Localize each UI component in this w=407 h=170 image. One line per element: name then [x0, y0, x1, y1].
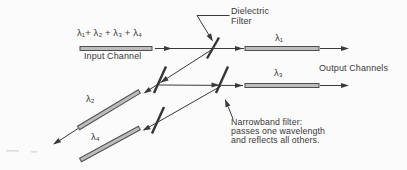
l1-fiber-bar [245, 47, 319, 51]
l4-fiber-bar [80, 126, 141, 161]
input-wavelengths-label: λ₁+ λ₂ + λ₃ + λ₄ [77, 28, 142, 38]
l1-exit-arrowhead [341, 46, 349, 51]
l4-entry-arrowhead [143, 125, 151, 131]
filter-tick-4 [152, 107, 164, 134]
dielectric-pointer-arrowhead [207, 33, 213, 41]
lambda1-label: λ₁ [275, 33, 283, 43]
l2-exit-arrowhead [53, 138, 61, 145]
narrowband-pointer-arrowhead [225, 99, 230, 107]
scan-artifact [31, 151, 37, 153]
input-channel-label: Input Channel [84, 51, 141, 61]
l3-exit-arrowhead [341, 83, 349, 88]
l1-entry-arrowhead [235, 46, 243, 51]
output-channels-label: Output Channels [319, 63, 388, 73]
diagram-canvas [0, 0, 407, 170]
input-arrowhead [164, 46, 172, 51]
input-fiber-bar [80, 47, 152, 51]
filter2-to-l3-beam [159, 85, 243, 86]
dielectric-label-pointer-line [197, 16, 230, 36]
narrowband-filter-note: Narrowband filter: passes one wavelength… [231, 118, 325, 145]
lambda2-label: λ₂ [86, 94, 95, 104]
wdm-demultiplexer-diagram: λ₁+ λ₂ + λ₃ + λ₄ Input Channel Dielectri… [0, 0, 407, 170]
scan-artifact [6, 150, 19, 152]
filter1-to-filter2-beam [161, 50, 213, 83]
lambda3-label: λ₃ [274, 68, 283, 78]
filter-tick-3 [216, 67, 228, 94]
dielectric-filter-label: Dielectric Filter [231, 6, 269, 26]
l3-fiber-bar [245, 84, 319, 88]
l3-entry-arrowhead [235, 83, 243, 88]
l2-entry-arrowhead [144, 87, 152, 94]
lambda4-label: λ₄ [91, 132, 100, 142]
